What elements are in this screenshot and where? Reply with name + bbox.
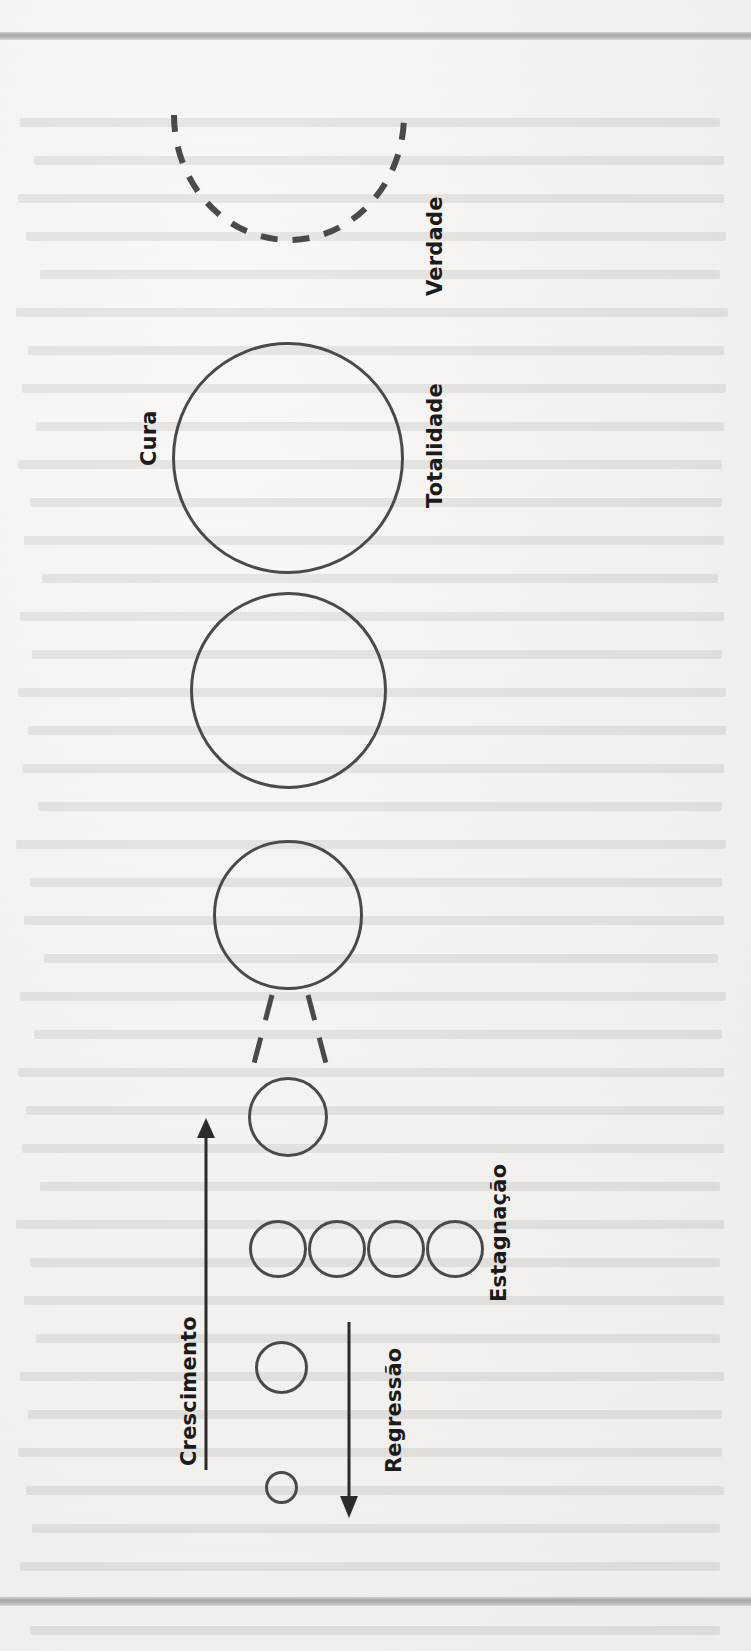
dashed-connector — [228, 993, 352, 1077]
label-crescimento: Crescimento — [177, 1316, 201, 1466]
circle-estagnacao-1 — [249, 1220, 307, 1278]
circle-regressao-1 — [255, 1341, 308, 1394]
regressao-arrow — [331, 1322, 367, 1518]
circle-level-4 — [248, 1077, 328, 1157]
label-totalidade: Totalidade — [423, 383, 447, 508]
circle-regressao-2 — [265, 1471, 298, 1504]
verdade-dashed-arc — [160, 110, 420, 350]
circle-estagnacao-4 — [426, 1220, 484, 1278]
label-cura: Cura — [137, 410, 161, 466]
circle-level-3 — [213, 840, 363, 990]
circle-level-2 — [190, 592, 387, 789]
circle-estagnacao-2 — [308, 1220, 366, 1278]
label-estagnacao: Estagnação — [487, 1164, 511, 1302]
figure-diagram: Verdade Cura Totalidade Estagnação Cresc… — [0, 0, 751, 1651]
circle-totalidade — [172, 342, 404, 574]
label-verdade: Verdade — [423, 196, 447, 296]
scanned-page: Verdade Cura Totalidade Estagnação Cresc… — [0, 0, 751, 1651]
circle-estagnacao-3 — [367, 1220, 425, 1278]
label-regressao: Regressão — [382, 1348, 406, 1473]
